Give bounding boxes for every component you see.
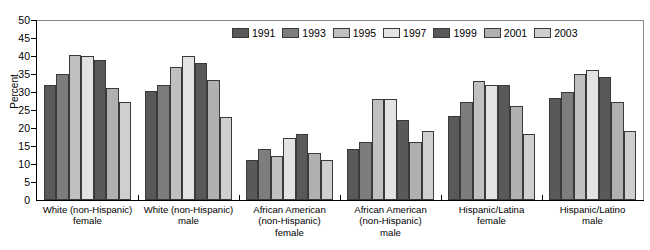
bar-group <box>347 20 435 200</box>
x-axis-line <box>36 200 644 201</box>
y-tick-mark <box>31 182 36 183</box>
legend-item: 1993 <box>282 28 325 39</box>
bar <box>359 142 372 200</box>
x-axis-category-label: Hispanic/Latinomale <box>542 204 643 227</box>
chart-legend: 1991199319951997199920012003 <box>232 28 585 39</box>
y-tick-mark <box>31 20 36 21</box>
bar <box>69 55 82 200</box>
y-tick-label: 10 <box>8 159 30 170</box>
legend-item: 1999 <box>433 28 476 39</box>
x-axis-label-line: female <box>239 227 340 238</box>
bar <box>599 77 612 200</box>
legend-label: 1991 <box>252 28 275 39</box>
bar <box>611 102 624 200</box>
legend-swatch <box>333 28 350 38</box>
bar-group <box>246 20 334 200</box>
bar <box>510 106 523 200</box>
x-axis-label-line: Hispanic/Latina <box>441 204 542 215</box>
bar <box>246 160 259 200</box>
x-axis-category-label: African American(non-Hispanic)male <box>340 204 441 238</box>
x-axis-label-line: (non-Hispanic) <box>340 215 441 226</box>
x-axis-category-label: White (non-Hispanic)male <box>138 204 239 227</box>
y-tick-label: 50 <box>8 15 30 26</box>
legend-swatch <box>232 28 249 38</box>
y-tick-mark <box>31 38 36 39</box>
y-tick-mark <box>31 128 36 129</box>
y-tick-label: 25 <box>8 105 30 116</box>
bar <box>624 131 637 200</box>
y-tick-label: 45 <box>8 33 30 44</box>
y-tick-mark <box>31 74 36 75</box>
y-tick-label: 0 <box>8 195 30 206</box>
bar <box>157 85 170 200</box>
x-axis-label-line: African American <box>340 204 441 215</box>
bar <box>195 63 208 200</box>
y-tick-label: 15 <box>8 141 30 152</box>
bar <box>448 116 461 200</box>
bar <box>207 80 220 200</box>
x-group-separator <box>441 195 442 200</box>
y-tick-mark <box>31 146 36 147</box>
bar <box>397 120 410 200</box>
y-tick-mark <box>31 56 36 57</box>
bar <box>347 149 360 200</box>
bar <box>409 142 422 200</box>
bar <box>296 134 309 200</box>
bar <box>271 156 284 200</box>
plot-frame-right <box>643 20 644 201</box>
bar <box>586 70 599 200</box>
x-axis-label-line: White (non-Hispanic) <box>138 204 239 215</box>
bar <box>106 88 119 200</box>
bar <box>561 92 574 200</box>
x-axis-label-line: female <box>37 215 138 226</box>
legend-item: 2003 <box>534 28 577 39</box>
bar <box>81 56 94 200</box>
legend-label: 2001 <box>504 28 527 39</box>
bar <box>56 74 69 200</box>
y-tick-label: 40 <box>8 51 30 62</box>
bar <box>460 102 473 200</box>
bar <box>308 153 321 200</box>
bar <box>422 131 435 200</box>
bar <box>170 67 183 200</box>
x-group-separator <box>542 195 543 200</box>
x-axis-label-line: (non-Hispanic) <box>239 215 340 226</box>
x-axis-label-line: African American <box>239 204 340 215</box>
x-axis-label-line: female <box>441 215 542 226</box>
y-tick-label: 35 <box>8 69 30 80</box>
bar <box>94 60 107 200</box>
x-axis-label-line: male <box>138 215 239 226</box>
bar <box>384 99 397 200</box>
bar <box>258 149 271 200</box>
bar-group <box>549 20 637 200</box>
legend-label: 1993 <box>302 28 325 39</box>
legend-swatch <box>282 28 299 38</box>
legend-item: 1997 <box>383 28 426 39</box>
plot-area <box>37 20 643 200</box>
legend-label: 1997 <box>403 28 426 39</box>
y-tick-mark <box>31 110 36 111</box>
bar <box>44 85 57 200</box>
x-axis-label-line: male <box>542 215 643 226</box>
legend-label: 1999 <box>453 28 476 39</box>
bar <box>574 74 587 200</box>
y-tick-mark <box>31 164 36 165</box>
legend-label: 1995 <box>353 28 376 39</box>
legend-swatch <box>383 28 400 38</box>
legend-swatch <box>433 28 450 38</box>
bar <box>145 91 158 200</box>
bar <box>220 117 233 200</box>
bar <box>549 98 562 200</box>
x-axis-label-line: Hispanic/Latino <box>542 204 643 215</box>
bar <box>498 85 511 200</box>
bar <box>372 99 385 200</box>
legend-swatch <box>484 28 501 38</box>
x-group-separator <box>138 195 139 200</box>
y-tick-label: 30 <box>8 87 30 98</box>
y-tick-mark <box>31 92 36 93</box>
bar <box>182 56 195 200</box>
legend-label: 2003 <box>554 28 577 39</box>
y-tick-label: 20 <box>8 123 30 134</box>
x-group-separator <box>239 195 240 200</box>
bar-group <box>44 20 132 200</box>
